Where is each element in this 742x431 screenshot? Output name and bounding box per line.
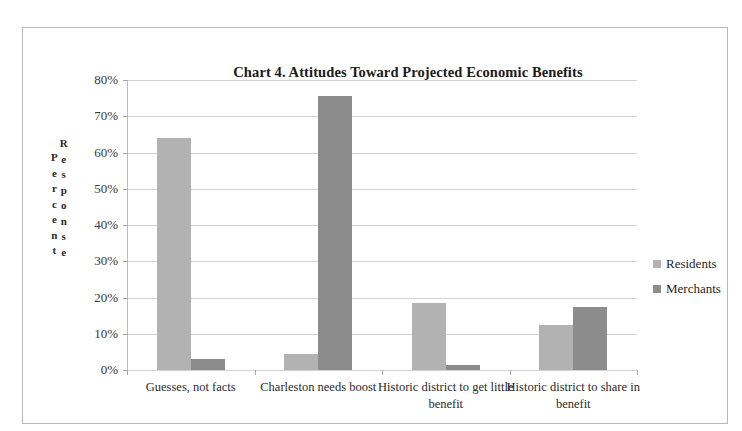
- y-axis-tick: [123, 189, 128, 190]
- y-axis-tick: [123, 225, 128, 226]
- y-axis-title-response: Response: [60, 136, 68, 260]
- y-axis-tick-label: 80%: [94, 72, 118, 88]
- bar-residents-1: [157, 138, 191, 370]
- y-axis-title-letter: s: [62, 167, 66, 183]
- y-axis-title-letter: t: [53, 243, 57, 259]
- y-axis-tick: [123, 80, 128, 81]
- y-axis-tick: [123, 116, 128, 117]
- gridline: [127, 225, 637, 226]
- bar-residents-4: [539, 325, 573, 370]
- x-axis-category-label: Historic district to get little benefit: [376, 379, 516, 413]
- bar-merchants-1: [191, 359, 225, 370]
- x-axis-tick: [255, 370, 256, 375]
- y-axis-title-letter: p: [61, 183, 67, 199]
- gridline: [127, 261, 637, 262]
- y-axis-title-letter: R: [60, 136, 68, 152]
- y-axis-tick-label: 40%: [94, 217, 118, 233]
- y-axis-tick-label: 70%: [94, 108, 118, 124]
- x-axis-category-label: Historic district to share in benefit: [504, 379, 644, 413]
- y-axis-tick: [123, 153, 128, 154]
- chart-title: Chart 4. Attitudes Toward Projected Econ…: [173, 64, 643, 81]
- gridline: [127, 298, 637, 299]
- y-axis-title-letter: n: [61, 214, 67, 230]
- chart-page-frame: Chart 4. Attitudes Toward Projected Econ…: [22, 27, 728, 424]
- bar-merchants-3: [446, 365, 480, 370]
- x-axis-category-label: Charleston needs boost: [249, 379, 389, 396]
- legend-item-merchants[interactable]: Merchants: [653, 281, 721, 297]
- gridline: [127, 116, 637, 117]
- gridline: [127, 80, 637, 81]
- y-axis-title-letter: c: [52, 197, 57, 213]
- gridline: [127, 153, 637, 154]
- plot-area: 80%70%60%50%40%30%20%10%0% Guesses, not …: [127, 80, 637, 370]
- chart-legend: ResidentsMerchants: [653, 256, 721, 297]
- bar-residents-3: [412, 303, 446, 370]
- x-axis-tick: [637, 370, 638, 375]
- legend-swatch-icon: [653, 285, 661, 293]
- y-axis-title-letter: e: [61, 245, 66, 261]
- y-axis-title: Percent Response: [51, 136, 91, 321]
- y-axis-tick: [123, 298, 128, 299]
- bar-residents-2: [284, 354, 318, 370]
- y-axis-title-percent: Percent: [51, 150, 58, 259]
- y-axis-tick-label: 50%: [94, 181, 118, 197]
- x-axis-tick: [382, 370, 383, 375]
- y-axis-tick-label: 0%: [101, 362, 118, 378]
- y-axis-title-letter: o: [61, 198, 67, 214]
- legend-swatch-icon: [653, 260, 661, 268]
- y-axis-tick-label: 20%: [94, 290, 118, 306]
- y-axis-title-letter: r: [52, 181, 57, 197]
- y-axis-title-letter: e: [52, 166, 57, 182]
- legend-label: Residents: [666, 256, 717, 272]
- y-axis-title-letter: e: [61, 152, 66, 168]
- bar-merchants-4: [573, 307, 607, 370]
- legend-item-residents[interactable]: Residents: [653, 256, 721, 272]
- y-axis-tick: [123, 334, 128, 335]
- y-axis-tick: [123, 261, 128, 262]
- x-axis-tick: [510, 370, 511, 375]
- y-axis-tick-label: 60%: [94, 145, 118, 161]
- x-axis-category-label: Guesses, not facts: [121, 379, 261, 396]
- y-axis-tick-label: 30%: [94, 253, 118, 269]
- legend-label: Merchants: [666, 281, 721, 297]
- x-axis-tick: [127, 370, 128, 375]
- y-axis-title-letter: n: [51, 228, 57, 244]
- bar-merchants-2: [318, 96, 352, 370]
- y-axis-title-letter: P: [51, 150, 58, 166]
- gridline: [127, 189, 637, 190]
- y-axis-title-letter: s: [62, 229, 66, 245]
- y-axis-tick-label: 10%: [94, 326, 118, 342]
- y-axis-title-letter: e: [52, 212, 57, 228]
